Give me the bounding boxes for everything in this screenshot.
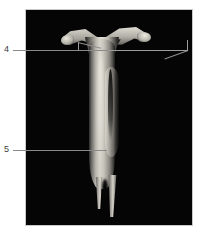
shaft-ridge — [105, 67, 119, 157]
prong-notch — [102, 179, 108, 197]
shaft-main — [89, 39, 115, 189]
leader-line-4 — [13, 50, 108, 51]
figure-root: 4 5 — [0, 0, 203, 233]
prong-left — [94, 177, 104, 209]
fork-right-arm — [105, 27, 147, 51]
specimen-plate — [25, 9, 193, 226]
prong-right — [106, 175, 118, 217]
fork-right-tip — [137, 32, 151, 42]
bracket-diagonal-right — [165, 50, 192, 68]
leader-label-4: 4 — [4, 45, 9, 54]
plate-grain-overlay — [25, 9, 193, 226]
fork-left-tip — [61, 35, 74, 45]
leader-line-5 — [13, 150, 107, 151]
leader-label-5: 5 — [4, 145, 9, 154]
shaft-fissure — [108, 69, 113, 141]
shaft-highlight — [97, 45, 104, 185]
